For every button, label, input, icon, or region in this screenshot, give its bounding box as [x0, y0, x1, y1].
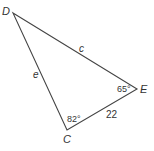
side-label-ce: 22: [106, 109, 118, 120]
triangle-diagram: D E C c e 22 65° 82°: [0, 0, 154, 151]
side-label-c: c: [79, 43, 84, 54]
angle-label-c: 82°: [67, 114, 81, 124]
vertex-label-c: C: [63, 133, 71, 145]
side-label-e: e: [33, 69, 39, 80]
vertex-label-d: D: [2, 5, 10, 17]
triangle-dec: [13, 13, 137, 130]
angle-label-e: 65°: [117, 84, 131, 94]
vertex-label-e: E: [140, 83, 148, 95]
